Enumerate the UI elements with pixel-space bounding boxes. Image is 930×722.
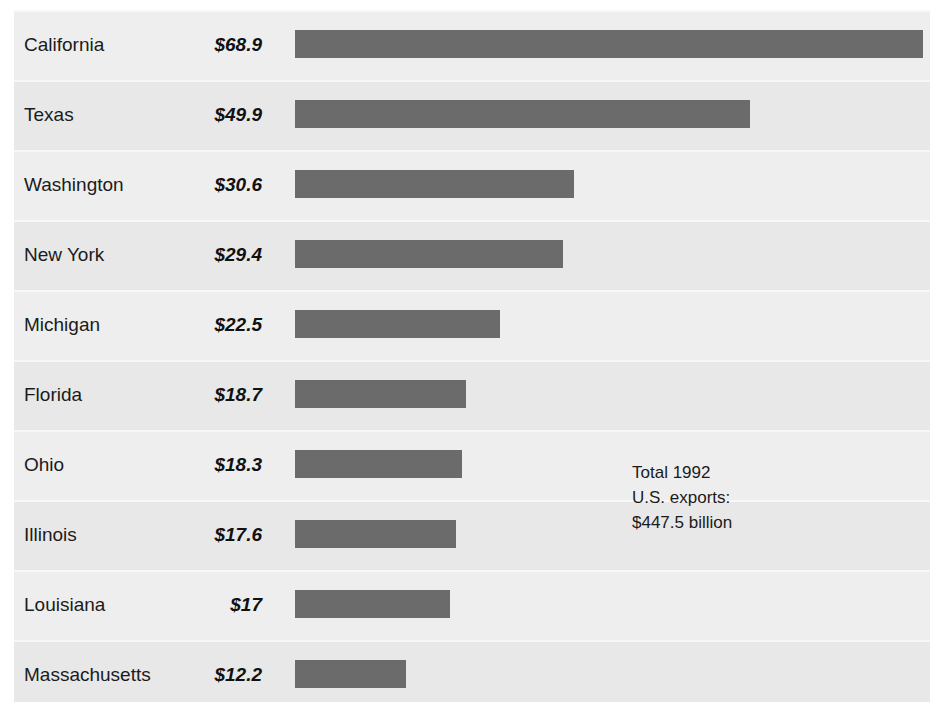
row-value-label: $17.6 <box>24 500 262 570</box>
row-bar <box>295 170 574 198</box>
row-bar <box>295 100 750 128</box>
row-value-label: $22.5 <box>24 290 262 360</box>
chart-row: Washington$30.6 <box>14 150 930 220</box>
row-bar <box>295 310 500 338</box>
row-value-label: $49.9 <box>24 80 262 150</box>
row-value-label: $18.3 <box>24 430 262 500</box>
row-value-label: $17 <box>24 570 262 640</box>
chart-row: Michigan$22.5 <box>14 290 930 360</box>
row-value-label: $68.9 <box>24 10 262 80</box>
chart-row: California$68.9 <box>14 10 930 80</box>
chart-row: Louisiana$17 <box>14 570 930 640</box>
row-value-label: $30.6 <box>24 150 262 220</box>
chart-plot-panel: California$68.9Texas$49.9Washington$30.6… <box>14 10 930 702</box>
total-exports-annotation: Total 1992 U.S. exports: $447.5 billion <box>632 460 732 535</box>
annotation-line-1: Total 1992 <box>632 460 732 485</box>
chart-row: Massachusetts$12.2 <box>14 640 930 702</box>
state-exports-bar-chart: California$68.9Texas$49.9Washington$30.6… <box>0 0 930 722</box>
annotation-line-3: $447.5 billion <box>632 510 732 535</box>
row-value-label: $18.7 <box>24 360 262 430</box>
annotation-line-2: U.S. exports: <box>632 485 732 510</box>
row-bar <box>295 590 450 618</box>
chart-row: Ohio$18.3 <box>14 430 930 500</box>
row-bar <box>295 450 462 478</box>
chart-row: New York$29.4 <box>14 220 930 290</box>
chart-row: Illinois$17.6 <box>14 500 930 570</box>
chart-row: Florida$18.7 <box>14 360 930 430</box>
row-bar <box>295 240 563 268</box>
row-value-label: $12.2 <box>24 640 262 702</box>
chart-row: Texas$49.9 <box>14 80 930 150</box>
row-bar <box>295 660 406 688</box>
row-value-label: $29.4 <box>24 220 262 290</box>
row-bar <box>295 30 923 58</box>
row-bar <box>295 520 456 548</box>
row-bar <box>295 380 466 408</box>
